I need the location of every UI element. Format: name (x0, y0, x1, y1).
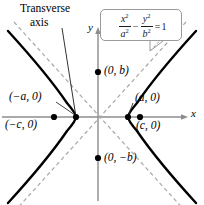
point-co-vertex-bottom (95, 155, 101, 161)
equation-content: x2 a2 − y2 b2 = 1 (101, 10, 183, 42)
y-axis (95, 27, 101, 201)
label-focus-right: (c, 0) (136, 120, 160, 132)
transverse-axis-label-line2: axis (30, 16, 49, 29)
point-vertex-right (125, 114, 131, 120)
equals-sign: = (155, 21, 161, 32)
y-axis-label: y (88, 22, 93, 33)
label-vertex-left: (−a, 0) (9, 91, 42, 103)
label-co-vertex-bottom: (0, −b) (104, 152, 137, 164)
hyperbola-figure: Transverse axis x2 a2 − y2 b2 = 1 y x (−… (0, 0, 204, 205)
point-focus-left (51, 114, 57, 120)
minus-operator: − (133, 21, 139, 32)
fraction-numerator-x: x2 (119, 13, 131, 25)
point-co-vertex-top (95, 69, 101, 75)
label-vertex-right: (a, 0) (135, 92, 160, 104)
point-vertex-left (73, 114, 79, 120)
equation-callout-box: x2 a2 − y2 b2 = 1 (100, 9, 182, 41)
fraction-x-over-a: x2 a2 (119, 13, 131, 39)
equation-rhs: 1 (161, 21, 166, 32)
transverse-axis-label-line1: Transverse (20, 2, 70, 15)
x-axis-label: x (191, 108, 196, 119)
asymptotes (14, 22, 186, 205)
fraction-denominator-b: b2 (141, 26, 153, 39)
fraction-numerator-y: y2 (141, 13, 153, 25)
label-co-vertex-top: (0, b) (104, 65, 129, 77)
label-focus-left: (−c, 0) (5, 119, 37, 131)
fraction-denominator-a: a2 (119, 26, 131, 39)
fraction-y-over-b: y2 b2 (141, 13, 153, 39)
